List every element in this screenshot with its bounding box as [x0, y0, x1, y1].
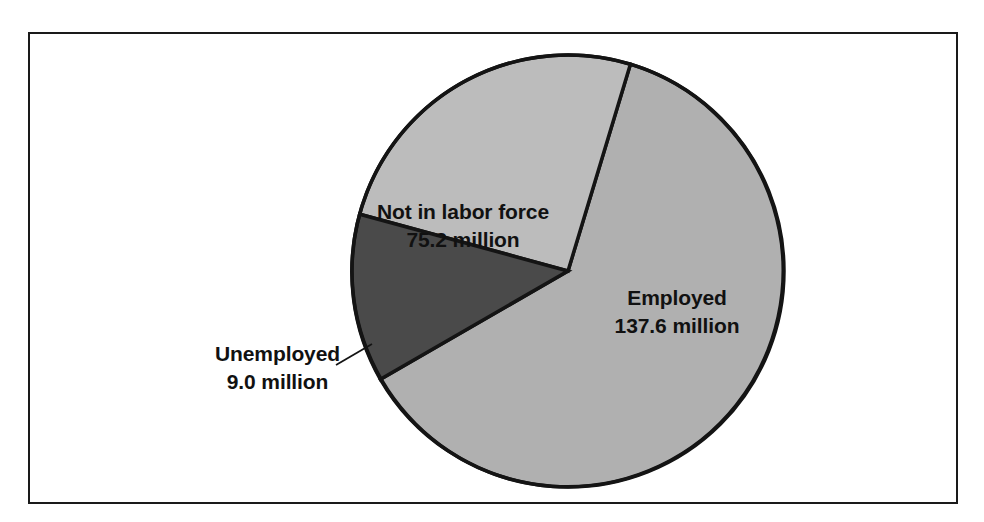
- pie-label-employed: Employed 137.6 million: [577, 284, 777, 339]
- pie-label-employed-name: Employed: [577, 284, 777, 312]
- pie-label-employed-value: 137.6 million: [577, 312, 777, 340]
- page-root: Not in labor force 75.2 million Employed…: [0, 0, 984, 522]
- pie-label-not-in-labor-force-name: Not in labor force: [343, 198, 583, 226]
- pie-label-unemployed-name: Unemployed: [185, 340, 370, 368]
- pie-label-unemployed-value: 9.0 million: [185, 368, 370, 396]
- pie-label-not-in-labor-force-value: 75.2 million: [343, 226, 583, 254]
- pie-label-not-in-labor-force: Not in labor force 75.2 million: [343, 198, 583, 253]
- pie-chart-graphic: [0, 0, 984, 522]
- pie-label-unemployed: Unemployed 9.0 million: [185, 340, 370, 395]
